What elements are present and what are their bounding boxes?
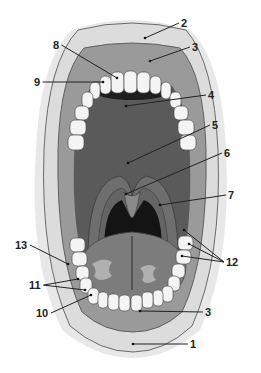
leader-dot [181,255,184,258]
leader-dot [84,289,87,292]
leader-dot [125,193,128,196]
leader-dot [67,263,70,266]
label-number: 7 [228,189,234,201]
label-number: 12 [226,256,238,268]
label-number: 4 [208,89,215,101]
label-number: 5 [212,119,218,131]
leader-dot [127,162,130,165]
leader-dot [159,204,162,207]
label-number: 6 [224,147,230,159]
mouth-anatomy-diagram: 123345678910111213 [0,0,261,373]
leader-dot [125,105,128,108]
leader-dot [132,343,135,346]
leader-dot [183,229,186,232]
leader-dot [116,77,119,80]
leader-dot [144,37,147,40]
leader-dot [102,81,105,84]
label-number: 13 [15,239,27,251]
label-number: 11 [29,279,41,291]
leader-dot [90,294,93,297]
leader-dot [77,278,80,281]
leader-dot [188,243,191,246]
label-number: 8 [53,39,59,51]
label-number: 3 [192,41,198,53]
label-number: 9 [34,76,40,88]
label-number: 1 [190,338,196,350]
leader-dot [139,310,142,313]
label-number: 3 [205,306,211,318]
label-number: 2 [181,17,187,29]
label-number: 10 [36,307,48,319]
leader-dot [149,60,152,63]
